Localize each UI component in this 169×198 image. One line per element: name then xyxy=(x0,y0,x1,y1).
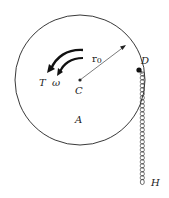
radius-line xyxy=(80,46,125,80)
omega-arrow-icon xyxy=(60,58,83,72)
chain-links xyxy=(140,72,144,185)
label-h: H xyxy=(150,177,160,188)
diagram-canvas: r0 D T ω C A H xyxy=(0,0,169,198)
label-c: C xyxy=(75,85,83,96)
label-omega: ω xyxy=(52,77,60,88)
label-a: A xyxy=(74,114,82,125)
label-t: T xyxy=(39,77,47,88)
label-r0: r0 xyxy=(92,53,102,65)
torque-arrow-icon xyxy=(51,50,83,69)
label-d: D xyxy=(140,55,149,66)
chain xyxy=(139,70,145,182)
